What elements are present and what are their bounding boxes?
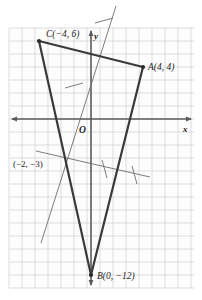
vertex-dot-a (141, 65, 145, 69)
label-midpoint-m: (−2, −3) (13, 159, 43, 169)
label-origin: O (79, 125, 86, 135)
vertex-dot-c (37, 39, 41, 43)
label-point-a: A(4, 4) (147, 62, 174, 73)
vertex-dot-b (89, 273, 93, 277)
label-x-axis: x (182, 124, 188, 134)
figure-svg: C(−4, 6) A(4, 4) B(0, −12) (−2, −3) O x … (0, 0, 202, 300)
label-point-c: C(−4, 6) (46, 29, 79, 40)
label-point-b: B(0, −12) (97, 271, 135, 282)
coordinate-figure: C(−4, 6) A(4, 4) B(0, −12) (−2, −3) O x … (0, 0, 202, 300)
